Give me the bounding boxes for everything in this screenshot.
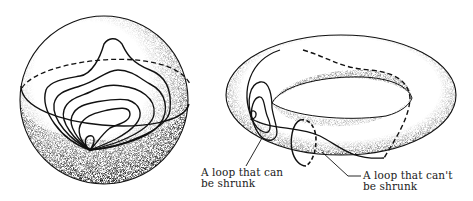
sphere (20, 16, 190, 184)
torus (226, 35, 456, 166)
label-shrinkable-line2: be shrunk (201, 178, 283, 189)
label-shrinkable-loop: A loop that can be shrunk (201, 167, 283, 189)
leader-line-shrinkable (246, 138, 262, 166)
leader-line-unshrinkable (322, 152, 361, 176)
label-unshrinkable-line2: be shrunk (363, 181, 453, 192)
label-unshrinkable-loop: A loop that can't be shrunk (363, 170, 453, 192)
sphere-base-point (88, 148, 91, 151)
